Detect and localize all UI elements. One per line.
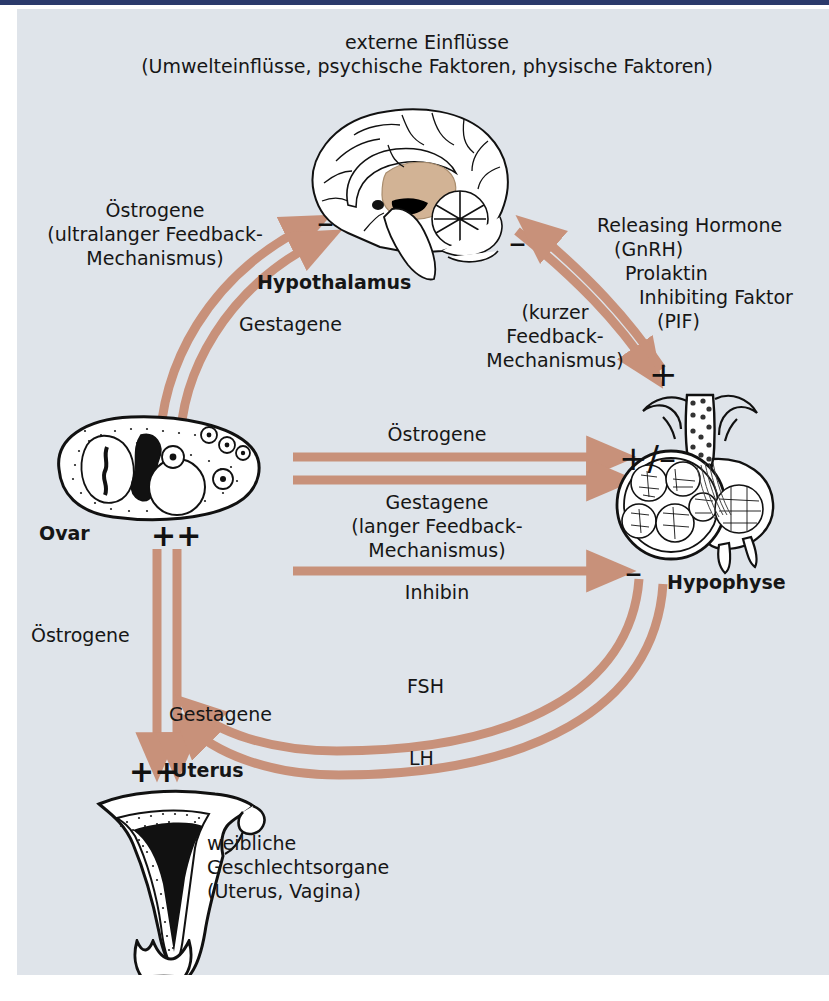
brain-sagittal-illustration — [292, 101, 532, 281]
fsh-label: FSH — [407, 675, 444, 698]
releasing-hormone-label: Releasing Hormone — [597, 214, 782, 237]
gestagene-langer-line2: (langer Feedback- — [351, 515, 522, 538]
prolaktin-label: Prolaktin — [625, 262, 708, 285]
vagina-illustration — [117, 939, 227, 975]
female-organs-line1: weibliche — [207, 832, 296, 855]
female-organs-line2: Geschlechtsorgane — [207, 856, 389, 879]
plus-minus-sign-hypophyse: +/– — [619, 441, 676, 475]
ultralang-feedback-label: (ultralanger Feedback- — [47, 223, 263, 246]
female-organs-line3: (Uterus, Vagina) — [207, 880, 361, 903]
oestrogene-uterus-label: Östrogene — [31, 624, 130, 647]
ultralang-mechanismus-label: Mechanismus) — [86, 247, 223, 270]
gnrh-label: (GnRH) — [614, 238, 683, 261]
top-rule — [0, 0, 829, 5]
minus-sign-inhibin: – — [625, 555, 642, 589]
minus-sign-hypothalamus-right: – — [509, 225, 526, 259]
lh-label: LH — [409, 747, 434, 770]
external-influences-title: externe Einflüsse — [345, 31, 509, 54]
pif-label: (PIF) — [657, 310, 700, 333]
hypophyse-label: Hypophyse — [667, 571, 786, 594]
minus-sign-hypothalamus-left: – — [317, 205, 334, 239]
diagram-panel: externe Einflüsse (Umwelteinflüsse, psyc… — [17, 9, 829, 975]
ovar-label: Ovar — [39, 522, 90, 545]
kurzer-feedback-line1: (kurzer — [521, 301, 588, 324]
external-influences-detail: (Umwelteinflüsse, psychische Faktoren, p… — [141, 55, 713, 78]
gestagene-langer-line3: Mechanismus) — [368, 539, 505, 562]
plus-plus-sign-uterus: ++ — [129, 757, 179, 787]
hypothalamus-label: Hypothalamus — [257, 271, 411, 294]
oestrogene-ultralang-label: Östrogene — [106, 199, 205, 222]
plus-sign-hypophyse: + — [649, 357, 678, 391]
kurzer-feedback-line3: Mechanismus) — [486, 349, 623, 372]
gestagene-hypothalamus-label: Gestagene — [239, 313, 342, 336]
uterus-label: Uterus — [172, 759, 244, 782]
inhibin-label: Inhibin — [405, 581, 469, 604]
inhibiting-faktor-label: Inhibiting Faktor — [639, 286, 793, 309]
ovary-illustration — [45, 407, 265, 525]
kurzer-feedback-line2: Feedback- — [506, 325, 603, 348]
plus-plus-sign-ovar: ++ — [151, 521, 201, 551]
gestagene-uterus-label: Gestagene — [169, 703, 272, 726]
pituitary-illustration — [615, 387, 815, 577]
oestrogene-center-label: Östrogene — [388, 423, 487, 446]
gestagene-langer-line1: Gestagene — [386, 491, 489, 514]
